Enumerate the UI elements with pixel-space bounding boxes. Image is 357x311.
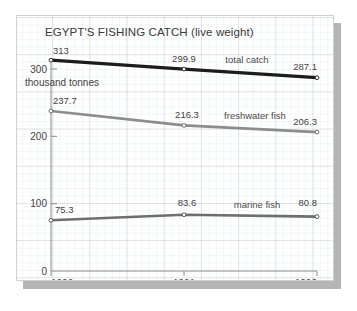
- y-tick-label-300: 300: [30, 64, 47, 75]
- series-freshwater-fish: 237.7 216.3 206.3 freshwater fish: [49, 95, 319, 134]
- x-tick-group: 1990 1991 1992: [51, 271, 317, 281]
- y-axis-unit-label: thousand tonnes: [25, 77, 99, 88]
- data-label-freshwater-fish-1991: 216.3: [175, 109, 199, 120]
- chart-card: EGYPT'S FISHING CATCH (live weight) 300 …: [16, 15, 334, 281]
- x-tick-label-1990: 1990: [51, 278, 74, 281]
- data-point-marker: [182, 67, 186, 71]
- data-point-marker: [315, 76, 319, 80]
- y-tick-label-200: 200: [30, 131, 47, 142]
- line-chart-plot: 300 200 100 0 thousand tonnes 1990 1991: [17, 16, 334, 281]
- series-total-catch: 313 299.9 287.1 total catch: [49, 45, 319, 80]
- series-label-marine-fish: marine fish: [234, 199, 280, 210]
- data-point-marker: [315, 215, 319, 219]
- y-tick-label-0: 0: [41, 266, 47, 277]
- data-point-marker: [182, 124, 186, 128]
- data-point-marker: [182, 213, 186, 217]
- chart-figure: EGYPT'S FISHING CATCH (live weight) 300 …: [0, 0, 357, 311]
- series-label-freshwater-fish: freshwater fish: [224, 110, 286, 121]
- data-label-freshwater-fish-1992: 206.3: [293, 116, 317, 127]
- data-point-marker: [49, 109, 53, 113]
- y-tick-label-100: 100: [30, 198, 47, 209]
- data-label-total-catch-1991: 299.9: [172, 53, 196, 64]
- series-label-total-catch: total catch: [225, 54, 268, 65]
- data-label-marine-fish-1992: 80.8: [299, 197, 318, 208]
- x-tick-label-1992: 1992: [295, 278, 318, 281]
- data-label-marine-fish-1990: 75.3: [55, 204, 74, 215]
- data-label-freshwater-fish-1990: 237.7: [53, 95, 77, 106]
- x-tick-label-1991: 1991: [173, 278, 196, 281]
- data-point-marker: [315, 130, 319, 134]
- data-label-total-catch-1992: 287.1: [293, 61, 317, 72]
- series-marine-fish: 75.3 83.6 80.8 marine fish: [49, 197, 319, 222]
- data-point-marker: [49, 58, 53, 62]
- data-point-marker: [49, 218, 53, 222]
- data-label-total-catch-1990: 313: [53, 45, 69, 56]
- data-label-marine-fish-1991: 83.6: [178, 197, 197, 208]
